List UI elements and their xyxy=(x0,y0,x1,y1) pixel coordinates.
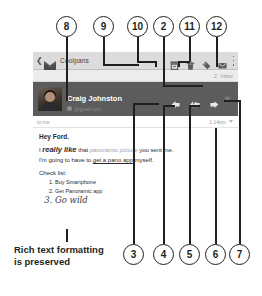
chevron-down-icon[interactable] xyxy=(229,120,233,123)
leader-line-7-v xyxy=(239,100,241,244)
list-item: Get Panoramic app xyxy=(55,188,232,195)
leader-line-10-h xyxy=(137,61,156,63)
message-actions xyxy=(171,95,219,104)
text-underline: get a pano app xyxy=(93,157,133,163)
leader-line-12 xyxy=(216,37,218,67)
callout-marker-7: 7 xyxy=(229,244,250,265)
leader-line-6 xyxy=(215,128,217,244)
label-icon[interactable] xyxy=(202,56,211,65)
text-plain-b: that xyxy=(77,147,90,153)
leader-line-3-v xyxy=(133,103,135,244)
text-plain-c: you sent me. xyxy=(138,147,174,153)
message-body: Hey Ford. I really like that panoramic p… xyxy=(33,128,238,235)
leader-line-11-h xyxy=(178,61,190,63)
presence-dot-icon xyxy=(67,106,72,111)
gmail-m-icon xyxy=(44,56,56,65)
callout-marker-10: 10 xyxy=(127,16,148,37)
text-plain-d: I'm going to have to xyxy=(39,157,93,163)
recipient-label: to me xyxy=(37,119,50,125)
paragraph-line-1: I really like that panoramic picture you… xyxy=(39,146,232,154)
leader-line-4-v xyxy=(163,105,165,244)
paragraph-line-2: I'm going to have to get a pano app myse… xyxy=(39,156,232,164)
leader-line-9-v xyxy=(103,37,105,64)
star-icon[interactable]: ★ xyxy=(223,94,233,104)
message-sender-header[interactable]: Craig Johnston @gmail.com xyxy=(33,82,238,116)
leader-line-10-v xyxy=(137,37,139,61)
callout-marker-6: 6 xyxy=(205,244,226,265)
leader-line-9-h xyxy=(103,64,139,66)
thread-counter: 2 xyxy=(214,73,217,79)
reply-all-icon[interactable] xyxy=(190,95,200,104)
callout-marker-12: 12 xyxy=(206,16,227,37)
callout-marker-3: 3 xyxy=(123,244,144,265)
leader-line-7-h xyxy=(224,100,240,102)
list-item: Buy Smartphone xyxy=(55,179,232,186)
email-app-window: ❮ Coolpans xyxy=(33,52,238,235)
avatar xyxy=(38,87,62,111)
leader-line-5-v xyxy=(189,105,191,244)
callout-marker-5: 5 xyxy=(179,244,200,265)
checklist-label: Check list: xyxy=(39,170,232,176)
leader-line-8 xyxy=(66,37,68,101)
message-meta-row[interactable]: to me 1:14pm xyxy=(33,116,238,128)
callout-marker-8: 8 xyxy=(56,16,77,37)
app-bar: ❮ Coolpans xyxy=(33,52,238,70)
leader-line-10-v2 xyxy=(155,61,157,67)
checklist: Buy Smartphone Get Panoramic app Go wild xyxy=(39,179,232,204)
list-item: Go wild xyxy=(55,197,232,204)
sender-email-row: @gmail.com xyxy=(67,106,171,112)
callout-marker-11: 11 xyxy=(179,16,200,37)
sender-info: Craig Johnston @gmail.com xyxy=(67,87,171,112)
sender-name: Craig Johnston xyxy=(67,94,122,103)
leader-line-caption xyxy=(66,229,68,242)
thread-label: Inbox xyxy=(221,73,233,79)
leader-line-11-v2 xyxy=(178,61,180,67)
leader-line-2-h xyxy=(163,85,203,87)
chevron-left-icon[interactable]: ❮ xyxy=(36,57,43,65)
leader-line-11-v xyxy=(189,37,191,61)
overflow-menu-icon[interactable] xyxy=(232,56,235,66)
forward-icon[interactable] xyxy=(209,95,219,104)
leader-line-4-h xyxy=(163,105,175,107)
leader-line-5-h xyxy=(189,105,200,107)
leader-line-3-h xyxy=(133,103,159,105)
callout-marker-9: 9 xyxy=(93,16,114,37)
callout-marker-2: 2 xyxy=(153,16,174,37)
mark-unread-icon[interactable] xyxy=(218,56,227,65)
text-plain-e: myself. xyxy=(133,157,154,163)
figure-caption: Rich text formatting is preserved xyxy=(14,244,109,268)
thread-counter-bar: 2 Inbox xyxy=(33,70,238,82)
greeting-text: Hey Ford. xyxy=(39,133,232,140)
callout-marker-4: 4 xyxy=(153,244,174,265)
timestamp: 1:14pm xyxy=(209,119,226,125)
sender-email: @gmail.com xyxy=(74,106,102,112)
text-highlight: panoramic picture xyxy=(90,147,138,153)
leader-line-2-v xyxy=(163,37,165,85)
reply-icon[interactable] xyxy=(171,95,181,104)
text-emphasis: really like xyxy=(42,145,76,154)
